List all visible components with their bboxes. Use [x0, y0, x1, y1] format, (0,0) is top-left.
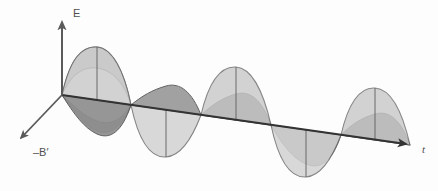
e-axis-label: E	[73, 7, 80, 19]
em-wave-figure: E –B′ t	[0, 0, 438, 191]
b-axis-label: –B′	[33, 146, 49, 158]
em-wave-svg: E –B′ t	[0, 0, 438, 191]
